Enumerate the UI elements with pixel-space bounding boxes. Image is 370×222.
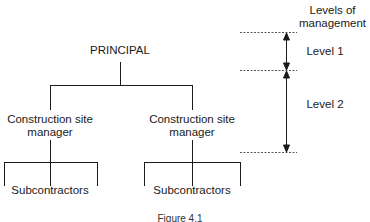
manager-right-label: Construction site manager — [142, 113, 242, 139]
manager-left-line1: Construction site — [0, 113, 100, 126]
manager-left-line2: manager — [0, 126, 100, 139]
level-1-label: Level 1 — [300, 45, 350, 58]
subcontractors-right-label: Subcontractors — [142, 184, 242, 197]
manager-right-line1: Construction site — [142, 113, 242, 126]
manager-left-label: Construction site manager — [0, 113, 100, 139]
level-2-label: Level 2 — [300, 98, 350, 111]
levels-header: Levels of management — [295, 4, 370, 30]
manager-right-line2: manager — [142, 126, 242, 139]
figure-caption: Figure 4.1 — [150, 212, 210, 222]
subcontractors-left-label: Subcontractors — [0, 184, 100, 197]
levels-header-line1: Levels of — [295, 4, 370, 17]
principal-label: PRINCIPAL — [80, 44, 160, 57]
levels-header-line2: management — [295, 17, 370, 30]
